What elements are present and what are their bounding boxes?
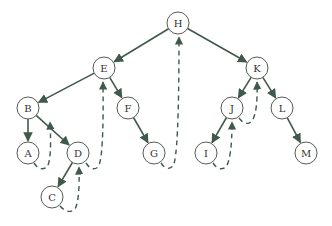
edge-k-l [263, 77, 276, 97]
return-path-c-d [60, 167, 79, 211]
edge-l-m [287, 118, 300, 143]
edge-h-k [188, 28, 247, 62]
node-k: K [246, 57, 268, 79]
node-label: I [204, 148, 208, 159]
edge-k-j [238, 77, 251, 97]
node-a: A [17, 142, 39, 164]
node-f: F [117, 97, 139, 119]
node-m: M [295, 142, 317, 164]
node-label: F [125, 103, 132, 114]
node-b: B [17, 97, 39, 119]
node-label: L [279, 103, 286, 114]
edge-e-f [110, 77, 122, 97]
edge-b-d [36, 115, 69, 145]
node-j: J [221, 97, 243, 119]
node-label: A [23, 148, 32, 159]
node-h: H [167, 12, 189, 34]
node-label: B [24, 103, 31, 114]
node-c: C [41, 186, 63, 208]
node-l: L [271, 97, 293, 119]
node-label: G [150, 148, 158, 159]
node-label: J [229, 103, 234, 114]
tree-edges [28, 28, 300, 186]
return-paths [34, 37, 257, 211]
node-g: G [143, 142, 165, 164]
node-label: D [74, 148, 82, 159]
node-label: H [174, 18, 183, 29]
node-e: E [93, 57, 115, 79]
tree-diagram: HEKBFJLADGIMC [0, 0, 332, 226]
node-label: E [100, 63, 107, 74]
node-d: D [67, 142, 89, 164]
edge-f-g [134, 118, 148, 143]
node-i: I [195, 142, 217, 164]
node-label: K [253, 63, 261, 74]
node-label: M [301, 148, 311, 159]
return-path-i-j [213, 122, 232, 169]
edge-e-b [39, 73, 95, 102]
edge-d-c [58, 162, 72, 186]
node-label: C [48, 192, 56, 203]
edge-j-i [212, 118, 226, 143]
edge-h-e [114, 29, 168, 62]
